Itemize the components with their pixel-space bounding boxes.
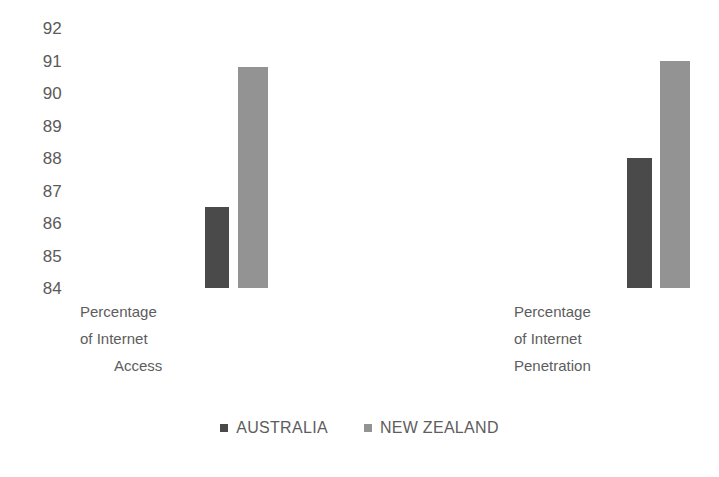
y-axis-tick-label: 92 xyxy=(26,20,62,37)
category-label-line: Percentage xyxy=(492,298,682,325)
y-axis-tick-label: 87 xyxy=(26,183,62,200)
legend-item-australia: AUSTRALIA xyxy=(220,420,328,436)
category-label-line: Penetration xyxy=(492,352,682,379)
y-axis-tick-label: 85 xyxy=(26,248,62,265)
bar-new-zealand-group-2 xyxy=(660,61,690,289)
y-axis-tick-label: 89 xyxy=(26,118,62,135)
bar-australia-group-2 xyxy=(627,158,652,288)
bar-australia-group-1 xyxy=(205,207,229,288)
category-label-internet-access: Percentage of Internet Access xyxy=(58,298,238,379)
legend-item-new-zealand: NEW ZEALAND xyxy=(364,420,499,436)
category-label-line: Access xyxy=(58,352,238,379)
category-label-line: of Internet xyxy=(58,325,238,352)
chart-legend: AUSTRALIA NEW ZEALAND xyxy=(0,414,719,442)
legend-label: AUSTRALIA xyxy=(236,420,328,436)
category-label-line: Percentage xyxy=(58,298,238,325)
category-label-line: of Internet xyxy=(492,325,682,352)
y-axis-tick-label: 84 xyxy=(26,280,62,297)
bar-chart: 929190898887868584 Percentage of Interne… xyxy=(0,0,719,477)
legend-swatch-icon xyxy=(220,424,228,432)
legend-swatch-icon xyxy=(364,424,372,432)
y-axis: 929190898887868584 xyxy=(26,28,62,296)
y-axis-tick-label: 90 xyxy=(26,85,62,102)
category-label-internet-penetration: Percentage of Internet Penetration xyxy=(492,298,682,379)
y-axis-tick-label: 91 xyxy=(26,53,62,70)
plot-area xyxy=(62,28,707,288)
y-axis-tick-label: 88 xyxy=(26,150,62,167)
category-axis: Percentage of Internet Access Percentage… xyxy=(0,298,719,390)
legend-label: NEW ZEALAND xyxy=(380,420,499,436)
bar-new-zealand-group-1 xyxy=(238,67,268,288)
y-axis-tick-label: 86 xyxy=(26,215,62,232)
